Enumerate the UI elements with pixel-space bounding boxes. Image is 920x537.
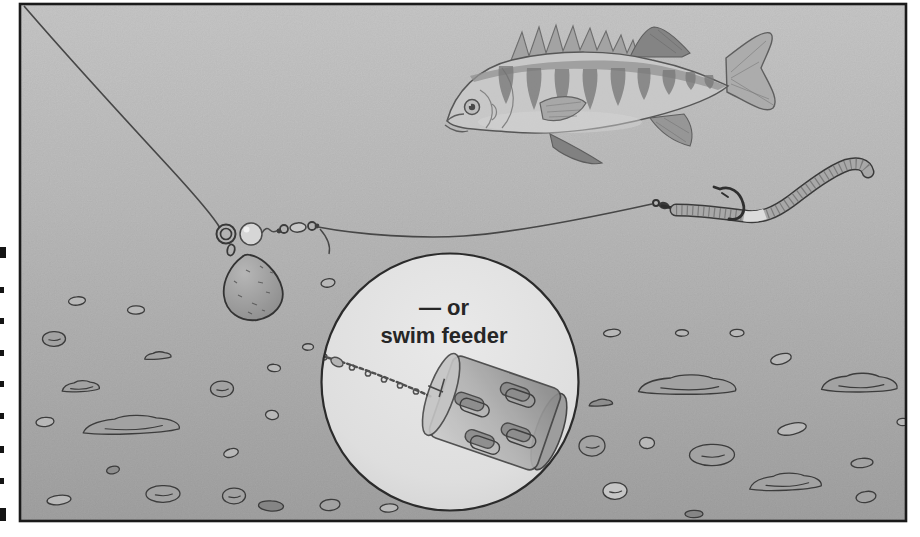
stone <box>689 444 734 465</box>
stone <box>603 483 627 500</box>
rig-illustration: — or swim feeder <box>0 0 920 537</box>
stone <box>267 364 281 372</box>
inset-label-line2: swim feeder <box>380 323 508 348</box>
margin-print-fragment <box>0 350 4 356</box>
stone <box>730 329 744 336</box>
stone <box>579 436 605 456</box>
stone <box>302 344 313 350</box>
inset-circle: — or swim feeder <box>321 254 579 511</box>
margin-print-fragment <box>0 381 4 387</box>
bead-highlight <box>244 227 250 233</box>
margin-print-fragment <box>0 478 4 484</box>
stone <box>685 510 703 517</box>
book-page: — or swim feeder <box>0 0 920 537</box>
margin-print-fragment <box>0 247 6 258</box>
worm-saddle <box>744 214 765 217</box>
stone <box>222 488 245 504</box>
margin-print-fragment <box>0 318 4 324</box>
stone <box>146 486 180 503</box>
stone <box>380 503 398 512</box>
stone <box>675 330 688 336</box>
stone <box>42 332 65 347</box>
bead-icon <box>240 223 262 245</box>
inset-label-line1: — or <box>419 295 470 320</box>
stone <box>639 437 655 449</box>
page-margin-marks <box>0 247 6 521</box>
margin-print-fragment <box>0 446 4 453</box>
margin-print-fragment <box>0 413 4 419</box>
margin-print-fragment <box>0 287 4 293</box>
stone <box>210 381 233 397</box>
margin-print-fragment <box>0 508 6 521</box>
stone <box>127 306 144 314</box>
